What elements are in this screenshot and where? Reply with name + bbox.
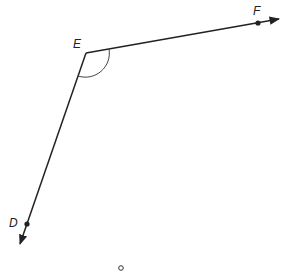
label-e: E [73,37,82,51]
point-f-dot [255,20,260,25]
label-d: D [9,216,18,230]
point-d-dot [24,221,29,226]
angle-diagram: E F D [0,0,286,274]
ray-ef [86,19,279,53]
ray-ed [20,53,86,244]
footer-circle-marker [119,266,124,271]
label-f: F [253,4,261,18]
